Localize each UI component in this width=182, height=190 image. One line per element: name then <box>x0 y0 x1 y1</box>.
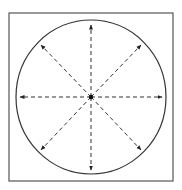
center-point <box>89 95 93 99</box>
arrow-up-right <box>91 45 141 97</box>
radial-diagram <box>0 0 182 190</box>
arrow-down-left <box>41 97 91 150</box>
arrow-up-left <box>41 45 91 97</box>
arrow-down-right <box>91 97 141 150</box>
